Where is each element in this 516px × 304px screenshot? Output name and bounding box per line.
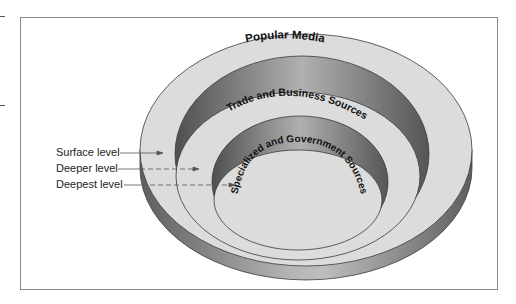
label-surface-level: Surface level bbox=[56, 146, 120, 158]
label-deepest-level: Deepest level bbox=[56, 178, 123, 190]
label-deeper-level: Deeper level bbox=[56, 162, 118, 174]
